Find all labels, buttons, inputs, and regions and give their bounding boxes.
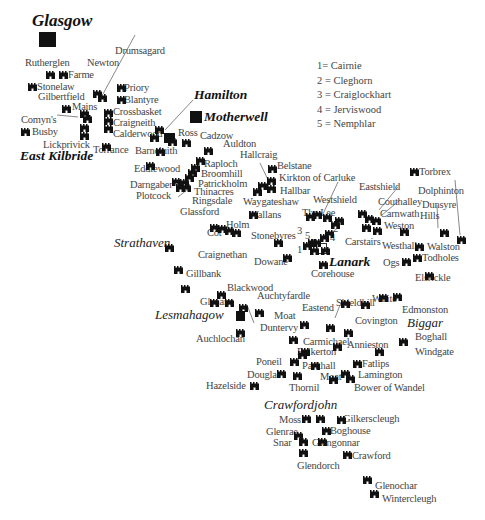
castle-icon — [59, 69, 68, 79]
castle-icon — [344, 327, 353, 337]
site-label: Poneil — [256, 356, 282, 367]
site-label: Belstane — [277, 160, 312, 171]
town-hamilton: Hamilton — [194, 87, 247, 103]
site-label: Hallbar — [280, 185, 310, 196]
castle-icon — [225, 297, 234, 307]
town-marker-glasgow — [39, 32, 56, 47]
castle-icon — [329, 374, 338, 384]
castle-icon — [361, 299, 370, 309]
castle-icon — [313, 209, 322, 219]
castle-icon — [62, 103, 71, 113]
castle-icon — [290, 356, 299, 366]
site-label: Lickprivick — [43, 139, 90, 150]
castle-icon — [277, 368, 286, 378]
site-label: Carnwath — [380, 208, 419, 219]
legend-item: 3 = Craiglockhart — [317, 88, 391, 103]
site-label: Corehouse — [311, 268, 354, 279]
legend-item: 5 = Nemphlar — [317, 117, 391, 132]
castle-icon — [117, 94, 126, 104]
site-label: Kirkton of Carluke — [279, 172, 355, 183]
castle-icon — [239, 302, 248, 312]
castle-icon — [372, 215, 381, 225]
site-label: Rutherglen — [25, 57, 69, 68]
site-label: Hills — [420, 210, 439, 221]
castle-icon — [337, 414, 346, 424]
legend: 1= Cairnie 2 = Cleghorn 3 = Craiglockhar… — [317, 59, 391, 132]
castle-map: 1= Cairnie 2 = Cleghorn 3 = Craiglockhar… — [0, 0, 485, 520]
site-label: Comyn's — [21, 114, 57, 125]
site-label: Eddlewood — [134, 163, 180, 174]
castle-icon — [400, 226, 409, 236]
castle-icon — [172, 176, 181, 186]
site-label: Priory — [124, 82, 149, 93]
site-label: Westshield — [313, 194, 357, 205]
town-glasgow: Glasgow — [32, 11, 92, 31]
town-crawfordjohn: Crawfordjohn — [264, 397, 337, 413]
site-label: Covington — [355, 315, 398, 326]
castle-icon — [165, 242, 174, 252]
site-label: Bower of Wandel — [354, 382, 425, 393]
site-label: Plotcock — [136, 190, 171, 201]
castle-icon — [325, 228, 334, 238]
castle-icon — [341, 298, 350, 308]
site-label: Lamington — [358, 369, 402, 380]
castle-icon — [379, 292, 388, 302]
town-motherwell: Motherwell — [204, 109, 268, 125]
site-label: Eastend — [302, 302, 334, 313]
castle-icon — [182, 137, 191, 147]
castle-icon — [399, 336, 408, 346]
castle-icon — [333, 341, 342, 351]
site-label: Windgate — [415, 346, 454, 357]
castle-icon — [253, 186, 262, 196]
castle-icon — [310, 245, 319, 255]
town-east-kilbride: East Kilbride — [20, 148, 93, 164]
site-label: Drumsagard — [115, 45, 165, 56]
site-label: Crossbasket — [113, 106, 162, 117]
site-label: Craigneith — [113, 117, 155, 128]
site-label: Hazelside — [206, 380, 246, 391]
castle-icon — [326, 322, 335, 332]
site-label: Moss — [279, 414, 301, 425]
site-label: Couthalley — [378, 196, 422, 207]
castle-icon — [274, 237, 283, 247]
castle-icon — [168, 136, 177, 146]
site-label: Gillbank — [186, 268, 221, 279]
castle-icon — [363, 474, 372, 484]
site-label: Hallcraig — [240, 149, 277, 160]
castle-icon — [28, 81, 37, 91]
castle-icon — [457, 234, 466, 244]
site-label: Torbrex — [419, 166, 451, 177]
castle-icon — [343, 449, 352, 459]
castle-icon — [362, 222, 371, 232]
site-label: Eastshield — [359, 181, 400, 192]
castle-icon — [283, 252, 292, 262]
town-marker-motherwell — [190, 111, 202, 123]
castle-icon — [316, 413, 325, 423]
site-label: Walston — [427, 241, 460, 252]
castle-icon — [393, 291, 402, 301]
castle-icon — [415, 241, 424, 251]
castle-icon — [440, 227, 449, 237]
castle-icon — [322, 425, 331, 435]
legend-item: 1= Cairnie — [317, 59, 391, 74]
site-label: Snar — [273, 437, 291, 448]
castle-icon — [267, 183, 276, 193]
site-label: Duntervy — [260, 322, 298, 333]
castle-icon — [156, 146, 165, 156]
town-biggar: Biggar — [407, 315, 443, 331]
castle-icon — [46, 69, 55, 79]
site-number-1: 1 — [297, 244, 302, 255]
castle-icon — [250, 380, 259, 390]
site-label: Glassford — [180, 206, 219, 217]
castle-icon — [174, 264, 183, 274]
castle-icon — [370, 488, 379, 498]
legend-item: 4 = Jerviswood — [317, 103, 391, 118]
castle-icon — [289, 334, 298, 344]
castle-icon — [410, 166, 419, 176]
site-label: Newton — [87, 57, 119, 68]
site-label: Wintercleugh — [382, 493, 436, 504]
castle-icon — [117, 82, 126, 92]
site-label: Fatlips — [362, 358, 389, 369]
site-label: Ogs — [383, 257, 399, 268]
town-lesmahagow: Lesmahagow — [155, 307, 224, 323]
